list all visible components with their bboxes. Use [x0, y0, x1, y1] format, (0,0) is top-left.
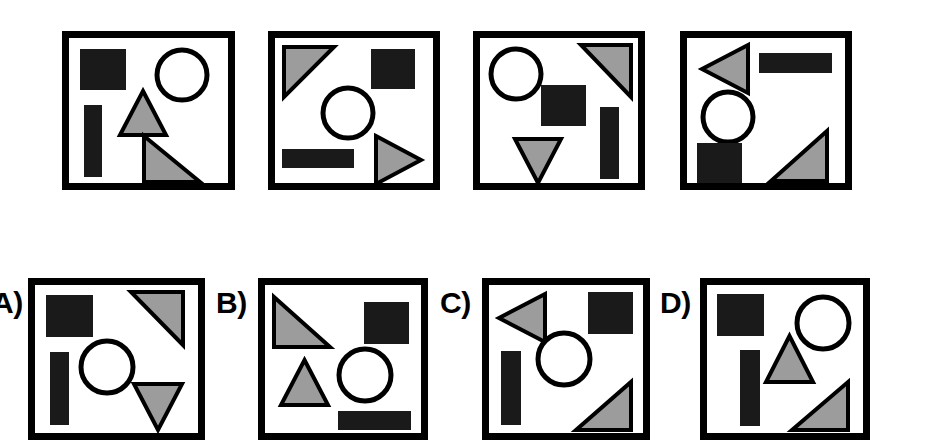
option-label-b: B) — [216, 288, 247, 318]
option-d-shapes — [700, 278, 870, 440]
reference-panel-1-shapes — [62, 31, 235, 190]
option-a-shapes — [28, 278, 205, 440]
option-b-shapes — [258, 278, 428, 440]
option-c[interactable] — [482, 278, 650, 440]
option-d[interactable] — [700, 278, 870, 440]
reference-panel-2-shapes — [268, 31, 440, 190]
reference-panel-4 — [680, 31, 852, 190]
option-a[interactable] — [28, 278, 205, 440]
reference-panel-4-shapes — [680, 31, 852, 190]
reference-panel-3 — [473, 31, 645, 190]
option-label-c: C) — [440, 288, 471, 318]
option-label-d: D) — [660, 288, 691, 318]
option-c-shapes — [482, 278, 650, 440]
reference-panel-1 — [62, 31, 235, 190]
option-label-a: A) — [0, 288, 23, 318]
reference-panel-3-shapes — [473, 31, 645, 190]
figure-canvas: A)B)C)D) — [0, 0, 935, 446]
option-b[interactable] — [258, 278, 428, 440]
reference-panel-2 — [268, 31, 440, 190]
